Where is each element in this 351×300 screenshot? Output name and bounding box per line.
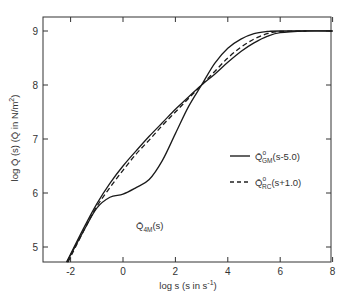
x-tick-label: -2 [66,266,75,277]
y-axis-ticks: 56789 [32,26,331,253]
curves [67,31,333,262]
curve-4m [67,31,333,262]
legend-item-gm: Q̄oGM(s-5.0) [230,149,300,164]
curve-label-4m: Q̄4M(s) [136,220,164,233]
x-tick-label: 2 [173,266,179,277]
x-tick-label: 4 [225,266,231,277]
svg-text:Q̄oGM(s-5.0): Q̄oGM(s-5.0) [255,149,300,164]
y-tick-label: 6 [32,188,38,199]
x-tick-label: 6 [277,266,283,277]
svg-text:Q̄oRC(s+1.0): Q̄oRC(s+1.0) [255,175,301,190]
x-tick-label: 0 [120,266,126,277]
curve-rc [68,31,306,262]
y-tick-label: 7 [32,134,38,145]
chart: -202468 56789 log s (s in s-1) log Q̄ (s… [0,0,351,300]
legend-item-rc: Q̄oRC(s+1.0) [230,175,301,190]
y-tick-label: 8 [32,80,38,91]
legend: Q̄oGM(s-5.0) Q̄oRC(s+1.0) [230,149,301,190]
x-axis-ticks: -202468 [66,17,336,277]
curve-gm [67,31,333,262]
x-axis-title: log s (s in s-1) [159,279,216,291]
y-tick-label: 9 [32,26,38,37]
x-tick-label: 8 [330,266,336,277]
y-tick-label: 5 [32,242,38,253]
y-axis-title: log Q̄ (s) (Q̄ in N/m2) [8,95,20,182]
